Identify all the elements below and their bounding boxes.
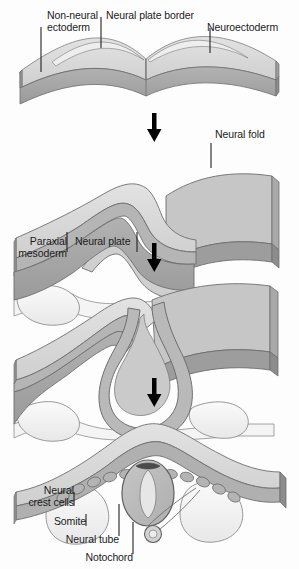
neural-fold-right-cap-stage-2 <box>272 176 279 250</box>
label-neural-plate-border: Neural plate border <box>106 10 194 22</box>
slab-right-cap-stage-1 <box>276 61 279 80</box>
arrow-stage-1-to-2 <box>147 113 162 142</box>
label-neural-crest-cells: Neural crest cells <box>0 485 74 508</box>
label-notochord: Notochord <box>0 552 133 564</box>
label-non-neural-ectoderm: Non-neural ectoderm <box>47 10 98 33</box>
label-neural-plate: Neural plate <box>75 236 130 248</box>
notochord-core-stage-4 <box>149 530 157 538</box>
label-neuroectoderm: Neuroectoderm <box>207 22 278 34</box>
slab-right-cap-stage-4 <box>280 472 286 508</box>
label-neural-tube: Neural tube <box>0 534 119 546</box>
slab-left-edge-stage-1 <box>20 70 22 88</box>
label-somite: Somite <box>0 516 86 528</box>
slab-left-edge-stage-3 <box>14 360 16 384</box>
label-paraxial-mesoderm: Paraxial mesoderm <box>0 236 67 259</box>
neural-fold-right-cap-stage-3 <box>270 286 278 358</box>
neurulation-figure: Non-neural ectoderm Neural plate border … <box>0 0 299 569</box>
label-neural-fold: Neural fold <box>215 129 265 141</box>
